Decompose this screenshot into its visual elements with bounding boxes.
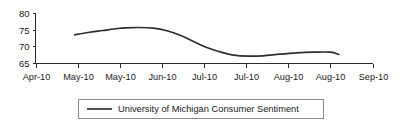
chart-container: 65707580 Apr-10May-10May-10Jun-10Jul-10J…: [0, 0, 403, 128]
line-chart: 65707580 Apr-10May-10May-10Jun-10Jul-10J…: [0, 0, 403, 128]
x-axis-tick-labels: Apr-10May-10May-10Jun-10Jul-10Jul-10Aug-…: [23, 72, 389, 82]
y-axis-tick-labels: 65707580: [19, 8, 30, 69]
x-axis-tick-label: May-10: [63, 72, 94, 82]
y-axis-tick-label: 80: [19, 8, 30, 19]
x-axis-tick-label: Jul-10: [234, 72, 259, 82]
x-axis-tick-label: Jul-10: [192, 72, 217, 82]
x-axis-tick-label: Jun-10: [148, 72, 176, 82]
x-axis-tick-label: Apr-10: [23, 72, 51, 82]
y-axis-tick-label: 70: [19, 41, 30, 52]
data-series-group: [75, 27, 339, 56]
x-axis-tick-label: May-10: [105, 72, 136, 82]
y-axis-tick-label: 75: [19, 25, 30, 36]
series-line-consumer-sentiment: [75, 27, 339, 56]
x-axis-tick-label: Sep-10: [359, 72, 389, 82]
x-axis-tick-marks: [37, 64, 374, 68]
y-axis-tick-label: 65: [19, 58, 30, 69]
x-axis-tick-label: Aug-10: [274, 72, 304, 82]
legend-label: University of Michigan Consumer Sentimen…: [118, 104, 299, 114]
x-axis-tick-label: Aug-10: [316, 72, 346, 82]
